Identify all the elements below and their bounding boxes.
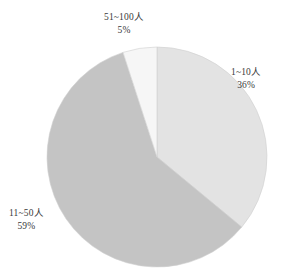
pie-label-51-100-value: 5% — [104, 24, 144, 37]
pie-label-11-50-name: 11~50人 — [9, 207, 44, 220]
pie-label-51-100: 51~100人 5% — [104, 11, 144, 36]
pie-label-1-10-name: 1~10人 — [231, 66, 261, 79]
pie-chart-canvas — [0, 0, 300, 279]
pie-label-51-100-name: 51~100人 — [104, 11, 144, 24]
pie-label-11-50: 11~50人 59% — [9, 207, 44, 232]
pie-label-1-10-value: 36% — [231, 79, 261, 92]
pie-chart: 1~10人 36% 11~50人 59% 51~100人 5% — [0, 0, 300, 279]
pie-label-1-10: 1~10人 36% — [231, 66, 261, 91]
pie-label-11-50-value: 59% — [9, 220, 44, 233]
